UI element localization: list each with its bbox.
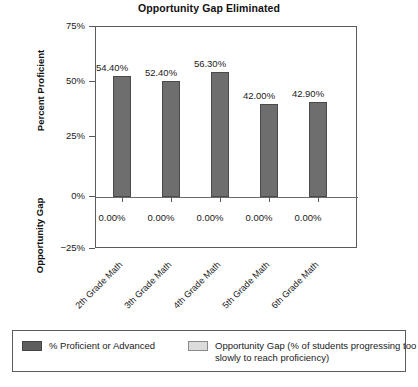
y-tick-label-minus-25: −25% (41, 243, 85, 253)
y-tick-label-75: 75% (41, 21, 85, 31)
y-tick-label-25: 25% (41, 131, 85, 141)
gap-value-label-5th-grade-math: 0.00% (231, 212, 287, 223)
bar-value-label-5th-grade-math: 42.00% (231, 90, 287, 101)
gap-value-label-2th-grade-math: 0.00% (84, 212, 140, 223)
legend-label-opportunity-gap: Opportunity Gap (% of students progressi… (215, 340, 418, 364)
y-tick-mark-minus-25 (89, 248, 95, 249)
chart-legend: % Proficient or Advanced Opportunity Gap… (12, 330, 406, 372)
bar-proficient-4th-grade-math[interactable] (211, 72, 229, 197)
x-tick-mark-3 (220, 197, 221, 202)
bar-proficient-2th-grade-math[interactable] (113, 76, 131, 197)
bar-proficient-5th-grade-math[interactable] (260, 104, 278, 197)
y-tick-label-0: 0% (41, 191, 85, 201)
bar-value-label-3th-grade-math: 52.40% (133, 67, 189, 78)
x-tick-mark-4 (269, 197, 270, 202)
x-tick-mark-1 (122, 197, 123, 202)
x-tick-mark-2 (171, 197, 172, 202)
legend-swatch-gap-icon (188, 341, 208, 351)
legend-swatch-proficient-icon (22, 341, 42, 351)
y-tick-label-50: 50% (41, 76, 85, 86)
x-tick-mark-5 (318, 197, 319, 202)
y-axis-title-percent-proficient: Percent Proficient (35, 36, 46, 146)
bar-value-label-6th-grade-math: 42.90% (280, 88, 336, 99)
legend-item-percent-proficient[interactable]: % Proficient or Advanced (22, 340, 155, 352)
gap-value-label-6th-grade-math: 0.00% (280, 212, 336, 223)
chart-title: Opportunity Gap Eliminated (0, 2, 418, 14)
bar-proficient-3th-grade-math[interactable] (162, 81, 180, 197)
legend-item-opportunity-gap[interactable]: Opportunity Gap (% of students progressi… (188, 340, 418, 364)
gap-value-label-4th-grade-math: 0.00% (182, 212, 238, 223)
bar-proficient-6th-grade-math[interactable] (309, 102, 327, 197)
chart-container: Opportunity Gap Eliminated Percent Profi… (0, 0, 418, 387)
bar-value-label-4th-grade-math: 56.30% (182, 58, 238, 69)
bar-value-label-2th-grade-math: 54.40% (84, 62, 140, 73)
legend-label-percent-proficient: % Proficient or Advanced (49, 340, 155, 352)
gap-value-label-3th-grade-math: 0.00% (133, 212, 189, 223)
